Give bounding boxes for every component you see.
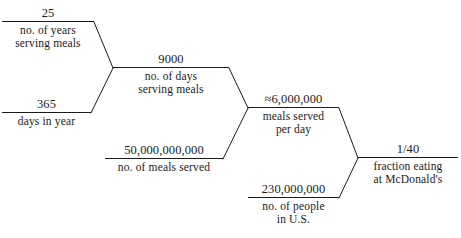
node-label-line1: no. of people bbox=[262, 200, 324, 212]
node-label: meals served per day bbox=[248, 108, 339, 136]
node-meals-served-per-day: ≈6,000,000 meals served per day bbox=[248, 92, 339, 136]
node-days-serving-meals: 9000 no. of days serving meals bbox=[113, 52, 229, 96]
node-label: fraction eating at McDonald's bbox=[358, 158, 458, 186]
node-label-line1: meals served bbox=[263, 110, 325, 122]
node-label: no. of meals served bbox=[105, 159, 223, 174]
node-label-line1: days in year bbox=[18, 115, 75, 127]
node-label-line1: no. of years bbox=[20, 24, 76, 36]
node-value: 9000 bbox=[113, 52, 229, 67]
node-label-line2: per day bbox=[248, 123, 339, 136]
edge-meals-to-perday bbox=[223, 108, 248, 159]
edge-years-to-days bbox=[94, 22, 113, 68]
node-meals-served: 50,000,000,000 no. of meals served bbox=[105, 143, 223, 174]
node-value: 1/40 bbox=[358, 142, 458, 157]
node-people-in-us: 230,000,000 no. of people in U.S. bbox=[248, 182, 339, 226]
node-label-line2: serving meals bbox=[113, 83, 229, 96]
node-label: no. of people in U.S. bbox=[248, 198, 339, 226]
node-label-line2: at McDonald's bbox=[358, 173, 458, 186]
node-label: no. of days serving meals bbox=[113, 68, 229, 96]
node-label-line1: no. of meals served bbox=[118, 161, 210, 173]
node-value: 365 bbox=[2, 97, 91, 112]
node-years-serving-meals: 25 no. of years serving meals bbox=[2, 6, 94, 50]
node-label-line2: serving meals bbox=[2, 37, 94, 50]
node-days-in-year: 365 days in year bbox=[2, 97, 91, 128]
node-label: no. of years serving meals bbox=[2, 22, 94, 50]
node-label: days in year bbox=[2, 113, 91, 128]
node-value: ≈6,000,000 bbox=[248, 92, 339, 107]
node-label-line2: in U.S. bbox=[248, 213, 339, 226]
edge-perday-to-fraction bbox=[339, 108, 358, 158]
estimation-tree-diagram: 25 no. of years serving meals 365 days i… bbox=[0, 0, 461, 238]
edge-days-to-perday bbox=[229, 68, 248, 108]
node-label-line1: no. of days bbox=[145, 70, 197, 82]
node-label-line1: fraction eating bbox=[374, 160, 443, 172]
node-fraction-eating: 1/40 fraction eating at McDonald's bbox=[358, 142, 458, 186]
node-value: 25 bbox=[2, 6, 94, 21]
node-value: 50,000,000,000 bbox=[105, 143, 223, 158]
edge-daysinyear-to-days bbox=[91, 68, 113, 113]
node-value: 230,000,000 bbox=[248, 182, 339, 197]
edge-people-to-fraction bbox=[339, 158, 358, 198]
